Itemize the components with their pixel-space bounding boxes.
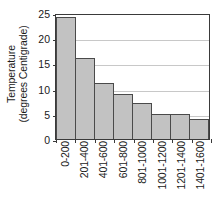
x-axis-tick-label: 201-400 [79,141,90,178]
x-axis-tick-label: 1401-1600 [195,141,206,189]
y-axis-title-line-2: (degrees Centigrade) [17,25,29,122]
bar [189,119,209,139]
x-axis-tick-label-cell: 801-1000 [133,141,152,207]
x-axis-tick-label: 601-800 [118,141,129,178]
y-axis-tick-label: 25 [38,9,50,20]
x-axis-tick-label: 1201-1400 [176,141,187,189]
bar [113,94,133,139]
x-axis-tick-label-cell: 401-600 [94,141,113,207]
y-axis-tick-label: 20 [38,34,50,45]
y-axis-title-line-1: Temperature [5,25,17,122]
x-axis-tick-label-cell: 601-800 [113,141,132,207]
y-axis-title: Temperature (degrees Centigrade) [0,8,34,140]
x-axis-tick-label-cell: 1401-1600 [191,141,210,207]
x-axis-tick-label-cell: 0-200 [55,141,74,207]
bar [170,114,190,139]
y-axis-tick-label: 10 [38,84,50,95]
bar [132,103,152,139]
x-axis-tick-label: 801-1000 [137,141,148,184]
y-axis-tick-labels: 0510152025 [34,8,52,140]
bar [94,83,114,139]
bar-chart: · Temperature (degrees Centigrade) 05101… [0,0,215,209]
chart-title-remnant: · [0,0,215,7]
x-axis-tick-label-cell: 1201-1400 [171,141,190,207]
y-axis-tick-label: 5 [44,110,50,121]
bar [151,114,171,139]
x-axis-tick-label-cell: 201-400 [74,141,93,207]
y-axis-tick-label: 15 [38,59,50,70]
plot-area [55,14,210,140]
chart-title-remnant-text: · [106,0,109,3]
x-axis-tick-mark [211,139,212,143]
x-axis-tick-label: 0-200 [59,141,70,167]
bar-series [56,15,209,139]
x-axis-tick-label-cell: 1001-1200 [152,141,171,207]
y-axis-tick-label: 0 [44,135,50,146]
x-axis-tick-labels: 0-200201-400401-600601-800801-10001001-1… [55,141,210,207]
x-axis-tick-label: 401-600 [98,141,109,178]
x-axis-tick-label: 1001-1200 [156,141,167,189]
bar [56,17,76,139]
bar [75,58,95,139]
